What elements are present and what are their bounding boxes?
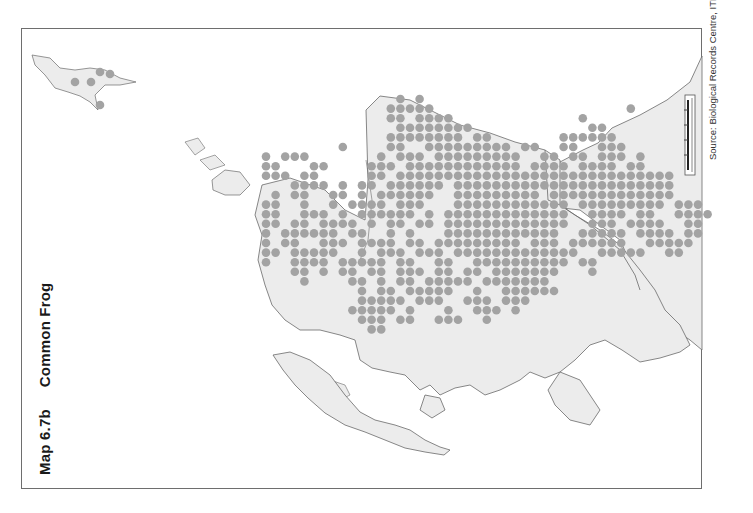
record-dot	[579, 114, 588, 123]
record-dot	[425, 162, 434, 171]
record-dot	[463, 162, 472, 171]
record-dot	[521, 200, 530, 209]
record-dot	[96, 68, 105, 77]
record-dot	[492, 258, 501, 267]
record-dot	[387, 181, 396, 190]
record-dot	[425, 181, 434, 190]
record-dot	[319, 181, 328, 190]
record-dot	[396, 104, 405, 113]
record-dot	[607, 191, 616, 200]
record-dot	[559, 200, 568, 209]
record-dot	[454, 162, 463, 171]
record-dot	[473, 248, 482, 257]
record-dot	[675, 248, 684, 257]
record-dot	[329, 220, 338, 229]
record-dot	[444, 210, 453, 219]
record-dot	[607, 210, 616, 219]
record-dot	[329, 191, 338, 200]
record-dot	[367, 162, 376, 171]
record-dot	[262, 220, 271, 229]
record-dot	[367, 220, 376, 229]
record-dot	[425, 114, 434, 123]
record-dot	[502, 143, 511, 152]
record-dot	[435, 162, 444, 171]
record-dot	[473, 191, 482, 200]
record-dot	[540, 181, 549, 190]
record-dot	[300, 210, 309, 219]
record-dot	[444, 258, 453, 267]
record-dot	[511, 248, 520, 257]
record-dot	[531, 162, 540, 171]
record-dot	[271, 200, 280, 209]
record-dot	[627, 181, 636, 190]
record-dot	[463, 248, 472, 257]
record-dot	[415, 248, 424, 257]
record-dot	[387, 248, 396, 257]
record-dot	[511, 162, 520, 171]
record-dot	[444, 316, 453, 325]
record-dot	[96, 101, 105, 110]
record-dot	[454, 181, 463, 190]
record-dot	[646, 172, 655, 181]
record-dot	[502, 172, 511, 181]
record-dot	[550, 239, 559, 248]
record-dot	[665, 229, 674, 238]
record-dot	[492, 239, 501, 248]
record-dot	[655, 239, 664, 248]
record-dot	[492, 191, 501, 200]
record-dot	[473, 220, 482, 229]
record-dot	[358, 296, 367, 305]
record-dot	[319, 258, 328, 267]
record-dot	[569, 133, 578, 142]
record-dot	[579, 191, 588, 200]
record-dot	[358, 277, 367, 286]
record-dot	[483, 200, 492, 209]
record-dot	[550, 258, 559, 267]
record-dot	[406, 162, 415, 171]
record-dot	[348, 277, 357, 286]
record-dot	[435, 114, 444, 123]
nw-islands	[212, 170, 250, 195]
record-dot	[598, 162, 607, 171]
record-dot	[483, 229, 492, 238]
record-dot	[684, 200, 693, 209]
record-dot	[367, 200, 376, 209]
record-dot	[511, 191, 520, 200]
record-dot	[444, 143, 453, 152]
record-dot	[598, 229, 607, 238]
record-dot	[521, 268, 530, 277]
record-dot	[87, 78, 96, 87]
record-dot	[579, 200, 588, 209]
record-dot	[483, 152, 492, 161]
record-dot	[588, 239, 597, 248]
record-dot	[655, 181, 664, 190]
record-dot	[646, 181, 655, 190]
record-dot	[607, 162, 616, 171]
record-dot	[406, 306, 415, 315]
record-dot	[579, 172, 588, 181]
record-dot	[463, 124, 472, 133]
record-dot	[598, 210, 607, 219]
nw-islands-2	[185, 138, 205, 155]
record-dot	[521, 296, 530, 305]
record-dot	[396, 124, 405, 133]
record-dot	[454, 152, 463, 161]
record-dot	[271, 248, 280, 257]
record-dot	[291, 268, 300, 277]
record-dot	[511, 239, 520, 248]
record-dot	[271, 172, 280, 181]
record-dot	[579, 229, 588, 238]
record-dot	[617, 191, 626, 200]
record-dot	[646, 239, 655, 248]
record-dot	[262, 210, 271, 219]
record-dot	[348, 229, 357, 238]
record-dot	[502, 162, 511, 171]
record-dot	[396, 210, 405, 219]
record-dot	[454, 143, 463, 152]
record-dot	[521, 248, 530, 257]
record-dot	[665, 172, 674, 181]
record-dot	[262, 162, 271, 171]
record-dot	[262, 200, 271, 209]
record-dot	[339, 268, 348, 277]
record-dot	[435, 143, 444, 152]
